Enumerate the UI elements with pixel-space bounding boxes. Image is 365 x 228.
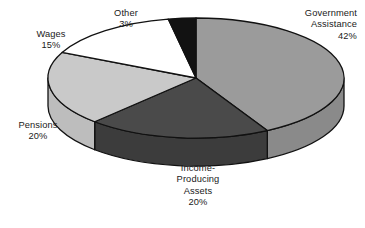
label-line: Other <box>92 8 160 19</box>
slice-label-wages: Wages 15% <box>15 29 87 52</box>
label-line: Government <box>251 8 357 19</box>
label-line: Wages <box>15 29 87 40</box>
slice-label-income-producing-assets: Income- Producing Assets 20% <box>155 163 241 209</box>
label-line: Producing <box>155 174 241 185</box>
label-line: Income- <box>155 163 241 174</box>
slice-label-other: Other 3% <box>92 8 160 31</box>
label-line: Pensions <box>0 120 76 131</box>
label-percent: 20% <box>155 197 241 208</box>
pie-chart-figure: Government Assistance 42% Other 3% Wages… <box>0 0 365 228</box>
label-line: Assistance <box>251 19 357 30</box>
label-line: Assets <box>155 186 241 197</box>
slice-label-pensions: Pensions 20% <box>0 120 76 143</box>
label-percent: 15% <box>15 40 87 51</box>
label-percent: 3% <box>92 19 160 30</box>
slice-label-government-assistance: Government Assistance 42% <box>251 8 357 42</box>
label-percent: 42% <box>251 31 357 42</box>
label-percent: 20% <box>0 131 76 142</box>
